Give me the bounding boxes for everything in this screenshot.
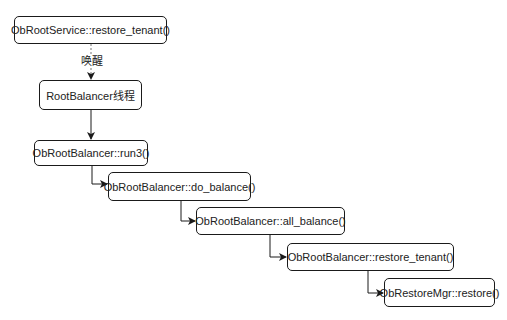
node-run3: ObRootBalancer::run3() — [34, 140, 148, 166]
node-rootservice-restore-tenant: ObRootService::restore_tenant() — [14, 16, 167, 44]
node-all-balance: ObRootBalancer::all_balance() — [196, 207, 345, 235]
edge-n4-n5 — [181, 201, 195, 221]
node-rootbalancer-restore-tenant: ObRootBalancer::restore_tenant() — [287, 243, 454, 271]
node-restoremgr-restore: ObRestoreMgr::restore() — [384, 278, 495, 307]
edge-label-wake: 唤醒 — [80, 55, 104, 67]
edge-n5-n6 — [270, 235, 286, 257]
node-do-balance: ObRootBalancer::do_balance() — [108, 172, 251, 201]
node-rootbalancer-thread: RootBalancer线程 — [39, 80, 142, 110]
